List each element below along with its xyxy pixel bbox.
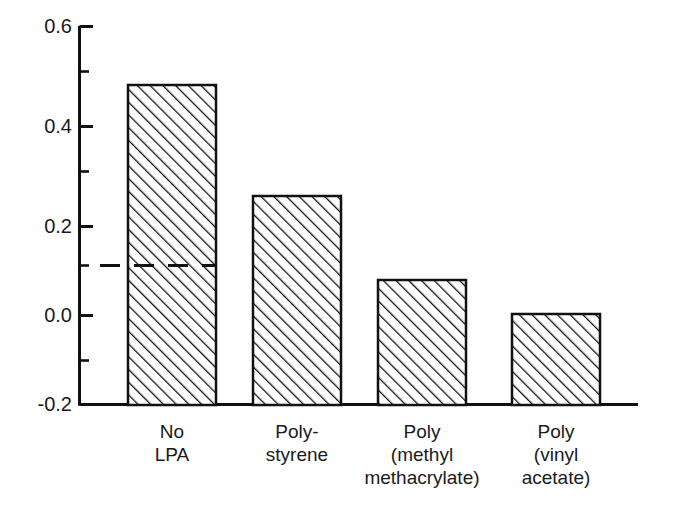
- x-category-line: Poly: [364, 420, 479, 443]
- x-category-line: methacrylate): [364, 466, 479, 489]
- x-category-line: (vinyl: [522, 443, 591, 466]
- y-tick-label-4: -0.2: [6, 394, 72, 414]
- chart-figure: 0.6 0.4 0.2 0.0 -0.2 No LPA Poly- styren…: [0, 0, 673, 515]
- bar-poly-methyl-methacrylate: [378, 280, 466, 405]
- y-tick-label-2: 0.2: [14, 216, 72, 236]
- x-category-line: LPA: [155, 443, 190, 466]
- x-category-line: No: [155, 420, 190, 443]
- bar-poly-vinyl-acetate: [512, 314, 600, 405]
- y-tick-label-3: 0.0: [14, 305, 72, 325]
- bar-no-lpa: [128, 85, 216, 405]
- x-category-line: Poly: [522, 420, 591, 443]
- y-tick-label-0: 0.6: [14, 16, 72, 36]
- x-category-label-poly-vinyl-acetate: Poly (vinyl acetate): [522, 420, 591, 489]
- x-category-line: acetate): [522, 466, 591, 489]
- x-category-label-polystyrene: Poly- styrene: [266, 420, 328, 466]
- x-category-line: styrene: [266, 443, 328, 466]
- x-category-label-no-lpa: No LPA: [155, 420, 190, 466]
- bar-polystyrene: [253, 196, 341, 405]
- x-category-line: (methyl: [364, 443, 479, 466]
- x-category-line: Poly-: [266, 420, 328, 443]
- x-category-label-poly-methyl-methacrylate: Poly (methyl methacrylate): [364, 420, 479, 489]
- y-tick-label-1: 0.4: [14, 116, 72, 136]
